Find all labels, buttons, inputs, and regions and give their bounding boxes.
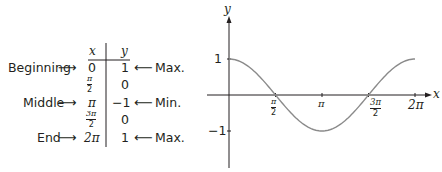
y-axis-label: y xyxy=(224,3,231,15)
x-tick-label-pi-over-2: π 2 xyxy=(271,98,276,117)
y-axis-arrow-icon xyxy=(227,16,232,23)
x-tick-label-pi: π xyxy=(318,99,325,109)
graph-plot xyxy=(0,0,442,172)
y-tick-label-neg1: −1 xyxy=(208,125,226,138)
x-tick-label-2pi: 2π xyxy=(408,99,424,111)
x-axis-arrow-icon xyxy=(425,93,432,98)
y-tick-label-1: 1 xyxy=(214,53,222,66)
x-axis-label: x xyxy=(433,88,440,100)
x-tick-label-3pi-over-2: 3π 2 xyxy=(370,98,381,118)
